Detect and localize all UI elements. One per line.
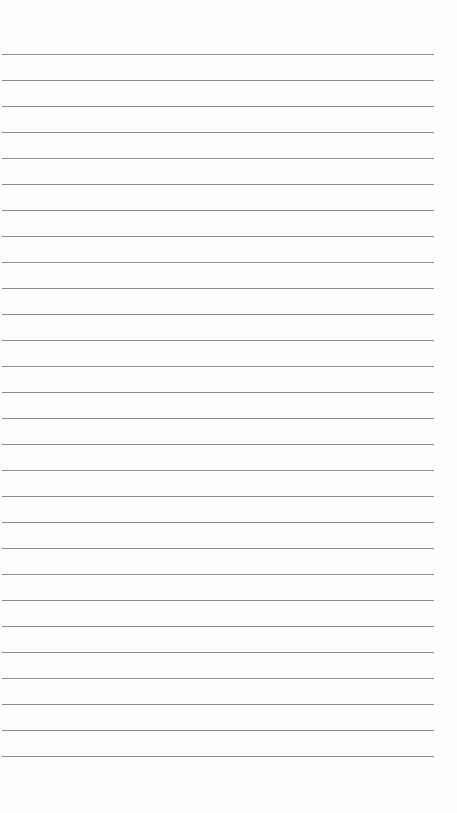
ruled-line xyxy=(2,600,434,601)
ruled-line xyxy=(2,522,434,523)
ruled-line xyxy=(2,80,434,81)
ruled-line xyxy=(2,262,434,263)
ruled-line xyxy=(2,730,434,731)
ruled-line xyxy=(2,470,434,471)
ruled-line xyxy=(2,444,434,445)
ruled-line xyxy=(2,106,434,107)
ruled-line xyxy=(2,366,434,367)
ruled-line xyxy=(2,574,434,575)
ruled-line xyxy=(2,184,434,185)
ruled-line xyxy=(2,626,434,627)
ruled-line xyxy=(2,704,434,705)
ruled-line xyxy=(2,54,434,55)
ruled-line xyxy=(2,158,434,159)
ruled-line xyxy=(2,314,434,315)
ruled-line xyxy=(2,496,434,497)
ruled-line xyxy=(2,756,434,757)
ruled-line xyxy=(2,548,434,549)
ruled-line xyxy=(2,392,434,393)
ruled-line xyxy=(2,418,434,419)
ruled-line xyxy=(2,210,434,211)
ruled-line xyxy=(2,340,434,341)
ruled-line xyxy=(2,132,434,133)
ruled-line xyxy=(2,678,434,679)
lined-paper-page xyxy=(0,0,457,813)
ruled-line xyxy=(2,236,434,237)
ruled-line xyxy=(2,288,434,289)
ruled-line xyxy=(2,652,434,653)
